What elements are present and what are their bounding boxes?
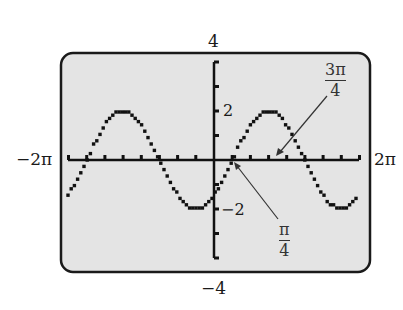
annotation-numerator: π [279, 222, 290, 238]
annotation-numerator: 3π [325, 62, 346, 78]
y-tick-label-neg2: −2 [221, 202, 245, 218]
annotation-denominator: 4 [330, 83, 340, 99]
y-max-label: 4 [208, 33, 219, 50]
x-max-label: 2π [374, 151, 396, 168]
y-tick-label-2: 2 [223, 103, 233, 119]
annotation-3pi-over-4: 3π 4 [325, 62, 346, 99]
calculator-screen [0, 0, 403, 310]
annotation-denominator: 4 [279, 243, 289, 259]
y-min-label: −4 [201, 280, 226, 297]
annotation-pi-over-4: π 4 [279, 222, 290, 259]
x-min-label: −2π [16, 151, 52, 168]
